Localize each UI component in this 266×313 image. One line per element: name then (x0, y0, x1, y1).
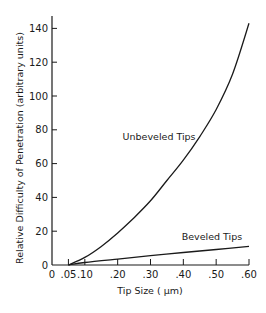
x-axis: 0.05.10.20.30.40.50.60 (49, 259, 257, 280)
x-tick-label: .10 (77, 269, 93, 280)
x-tick-label: .60 (241, 269, 257, 280)
line-chart: 020406080100120140 0.05.10.20.30.40.50.6… (0, 0, 266, 313)
series-line-beveled-tips (68, 246, 249, 265)
y-tick-label: 0 (42, 260, 48, 271)
series-label-beveled-tips: Beveled Tips (182, 231, 243, 242)
y-tick-label: 120 (29, 57, 48, 68)
y-tick-label: 100 (29, 91, 48, 102)
x-tick-label: .30 (143, 269, 159, 280)
y-tick-label: 140 (29, 23, 48, 34)
x-tick-label: 0 (49, 269, 55, 280)
x-tick-label: .05 (60, 269, 76, 280)
x-tick-label: .20 (110, 269, 126, 280)
series-line-unbeveled-tips (68, 23, 249, 265)
y-tick-label: 80 (35, 124, 48, 135)
x-tick-label: .50 (208, 269, 224, 280)
x-tick-label: .40 (175, 269, 191, 280)
y-axis-label: Relative Difficulty of Penetration (arbi… (14, 32, 25, 264)
series-group: Unbeveled TipsBeveled Tips (68, 23, 249, 265)
y-tick-label: 60 (35, 158, 48, 169)
x-axis-label: Tip Size ( μm) (116, 285, 182, 296)
y-axis: 020406080100120140 (29, 16, 57, 271)
series-label-unbeveled-tips: Unbeveled Tips (123, 131, 196, 142)
y-tick-label: 40 (35, 192, 48, 203)
y-tick-label: 20 (35, 226, 48, 237)
